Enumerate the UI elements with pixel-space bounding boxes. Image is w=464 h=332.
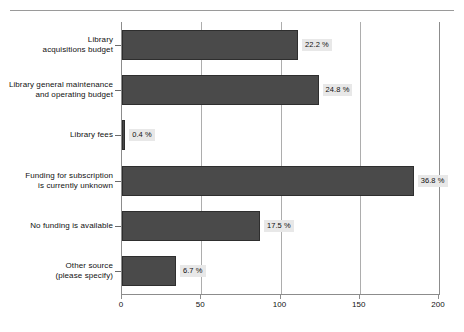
bar-row: 36.8 % (122, 166, 439, 196)
bar-row: 6.7 % (122, 256, 439, 286)
bar (122, 166, 414, 196)
header-divider (10, 10, 454, 11)
category-axis: Library acquisitions budgetLibrary gener… (0, 22, 121, 294)
x-tick-label: 0 (119, 300, 123, 310)
bar-value-label: 22.2 % (302, 39, 332, 51)
x-tick-150 (359, 294, 360, 299)
cropped-header-fragment (14, 0, 434, 9)
bar (122, 30, 298, 60)
x-tick-label: 150 (352, 300, 365, 310)
bar (122, 256, 176, 286)
bar-row: 22.2 % (122, 30, 439, 60)
category-label: Library acquisitions budget (0, 35, 113, 55)
category-label: Funding for subscription is currently un… (0, 171, 113, 191)
category-label: No funding is available (0, 221, 113, 231)
x-tick-200 (438, 294, 439, 299)
bar-value-label: 36.8 % (418, 175, 448, 187)
category-label: Library fees (0, 130, 113, 140)
category-label: Other source (please specify) (0, 261, 113, 281)
x-tick-label: 50 (196, 300, 205, 310)
bar-value-label: 17.5 % (264, 220, 294, 232)
bar-row: 24.8 % (122, 75, 439, 105)
plot-area: 22.2 %24.8 %0.4 %36.8 %17.5 %6.7 % (121, 22, 440, 295)
chart-figure: Library acquisitions budgetLibrary gener… (0, 0, 464, 332)
bar (122, 211, 260, 241)
bar (122, 75, 319, 105)
bar (122, 120, 125, 150)
x-tick-label: 200 (431, 300, 444, 310)
bar-row: 0.4 % (122, 120, 439, 150)
x-tick-100 (280, 294, 281, 299)
x-tick-label: 100 (273, 300, 286, 310)
x-tick-50 (200, 294, 201, 299)
bars-group: 22.2 %24.8 %0.4 %36.8 %17.5 %6.7 % (122, 22, 439, 294)
x-tick-0 (121, 294, 122, 299)
category-label: Library general maintenance and operatin… (0, 80, 113, 100)
bar-row: 17.5 % (122, 211, 439, 241)
bar-value-label: 6.7 % (180, 265, 206, 277)
bar-value-label: 24.8 % (323, 84, 353, 96)
bar-value-label: 0.4 % (129, 129, 155, 141)
